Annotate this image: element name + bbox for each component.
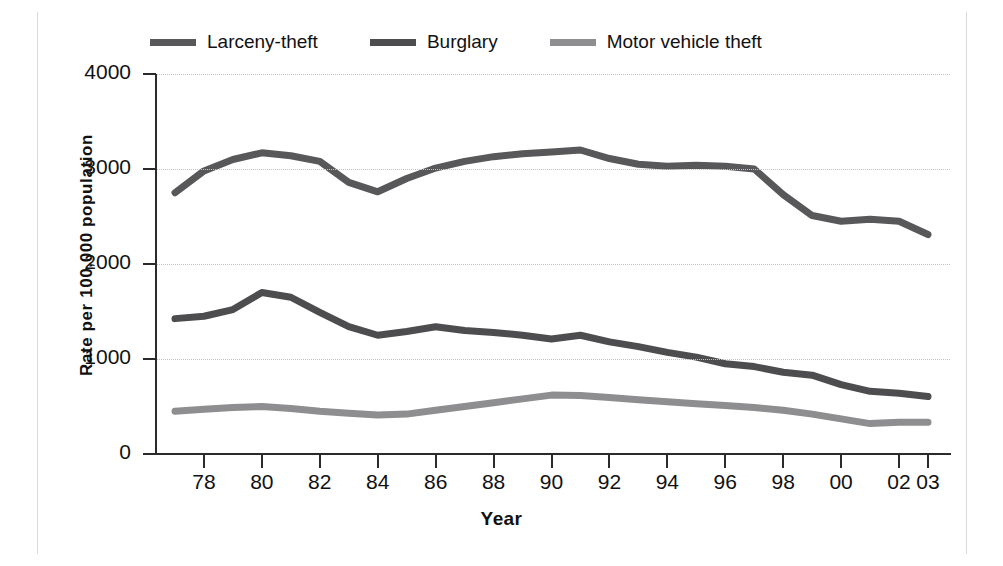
x-tick-mark [898,455,900,468]
series-line [175,150,928,235]
legend-item: Motor vehicle theft [550,31,762,53]
x-tick-mark [666,455,668,468]
y-tick-mark [143,168,156,170]
x-tick-mark [608,455,610,468]
y-axis-tick-labels: 01000200030004000 [0,0,143,566]
x-tick-label: 90 [530,470,574,494]
legend-label: Motor vehicle theft [607,31,762,53]
legend-swatch-icon [150,39,196,46]
x-tick-mark [435,455,437,468]
gridline-y [155,264,950,265]
x-tick-label: 88 [472,470,516,494]
x-tick-label: 82 [298,470,342,494]
series-line [175,293,928,397]
x-tick-label: 80 [240,470,284,494]
x-tick-mark [724,455,726,468]
y-tick-label: 4000 [0,60,131,84]
x-tick-mark [551,455,553,468]
x-tick-label: 84 [356,470,400,494]
y-tick-mark [143,73,156,75]
x-tick-label: 94 [645,470,689,494]
y-axis-title: Rate per 100,000 population [77,105,97,405]
x-tick-mark [927,455,929,468]
x-tick-mark [377,455,379,468]
x-tick-mark [319,455,321,468]
x-tick-label: 00 [819,470,863,494]
x-tick-label: 98 [761,470,805,494]
page-edge-rule-right [966,12,967,554]
x-tick-mark [203,455,205,468]
x-tick-label: 92 [587,470,631,494]
series-line [175,395,928,424]
plot-area [155,74,950,454]
x-tick-label: 78 [182,470,226,494]
y-tick-label: 1000 [0,345,131,369]
gridline-y [155,169,950,170]
y-tick-label: 0 [0,440,131,464]
legend-item: Burglary [370,31,498,53]
gridline-y [155,74,950,75]
x-tick-mark [782,455,784,468]
x-tick-mark [493,455,495,468]
chart-page: Larceny-theftBurglaryMotor vehicle theft… [0,0,1003,566]
x-tick-label: 03 [906,470,950,494]
x-tick-mark [840,455,842,468]
y-tick-label: 3000 [0,155,131,179]
x-tick-label: 86 [414,470,458,494]
legend-label: Burglary [427,31,498,53]
x-axis-title: Year [0,508,1003,530]
legend-item: Larceny-theft [150,31,318,53]
legend-swatch-icon [370,39,416,46]
y-tick-mark [143,453,156,455]
legend-swatch-icon [550,39,596,46]
y-tick-label: 2000 [0,250,131,274]
y-tick-mark [143,358,156,360]
x-tick-label: 96 [703,470,747,494]
chart-legend: Larceny-theftBurglaryMotor vehicle theft [150,28,910,56]
x-tick-mark [261,455,263,468]
gridline-y [155,359,950,360]
legend-label: Larceny-theft [207,31,318,53]
y-tick-mark [143,263,156,265]
